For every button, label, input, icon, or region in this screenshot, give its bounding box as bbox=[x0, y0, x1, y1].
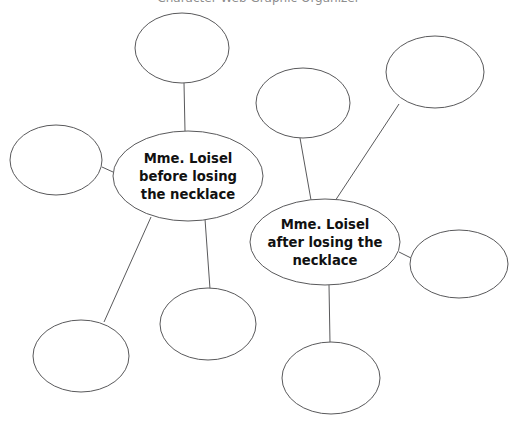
topic-bubble-label-line: the necklace bbox=[141, 187, 235, 202]
topic-bubbles-group: Mme. Loiselbefore losingthe necklaceMme.… bbox=[113, 131, 400, 285]
topic-bubble-label-line: necklace bbox=[292, 253, 357, 268]
detail-bubble[interactable] bbox=[282, 342, 380, 414]
detail-bubble[interactable] bbox=[135, 13, 229, 83]
detail-bubble[interactable] bbox=[410, 230, 508, 298]
connector-line bbox=[300, 138, 311, 200]
topic-bubble-label: Mme. Loiselbefore losingthe necklace bbox=[139, 151, 237, 202]
detail-bubble[interactable] bbox=[10, 125, 102, 195]
detail-bubble[interactable] bbox=[33, 320, 129, 392]
topic-bubble-label-line: Mme. Loisel bbox=[144, 151, 233, 166]
character-web-diagram: Mme. Loiselbefore losingthe necklaceMme.… bbox=[0, 0, 517, 424]
connector-line bbox=[102, 167, 113, 172]
connector-line bbox=[399, 252, 411, 258]
connector-line bbox=[184, 83, 185, 131]
connector-line bbox=[329, 285, 330, 343]
diagram-canvas: Character Web Graphic Organizer Mme. Loi… bbox=[0, 0, 517, 424]
topic-bubble-label-line: after losing the bbox=[268, 235, 383, 250]
connector-line bbox=[104, 217, 151, 322]
detail-bubble[interactable] bbox=[386, 36, 484, 108]
detail-bubble[interactable] bbox=[160, 288, 256, 360]
detail-bubbles-group bbox=[10, 13, 508, 414]
connector-line bbox=[205, 219, 210, 289]
topic-bubble-label-line: before losing bbox=[139, 169, 237, 184]
detail-bubble[interactable] bbox=[256, 68, 350, 138]
topic-bubble-label-line: Mme. Loisel bbox=[281, 217, 370, 232]
